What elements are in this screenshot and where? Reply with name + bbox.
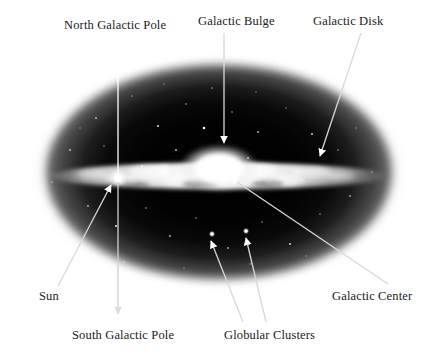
label-sun: Sun (39, 289, 59, 303)
label-galactic-bulge: Galactic Bulge (198, 14, 275, 28)
label-south-galactic-pole: South Galactic Pole (72, 328, 174, 342)
label-north-galactic-pole: North Galactic Pole (64, 18, 166, 32)
label-galactic-disk: Galactic Disk (313, 14, 383, 28)
galaxy-illustration (0, 0, 438, 358)
label-galactic-center: Galactic Center (332, 289, 412, 303)
label-globular-clusters: Globular Clusters (224, 328, 315, 342)
galaxy-diagram-figure: North Galactic Pole Galactic Bulge Galac… (0, 0, 438, 358)
galactic-bulge-core (179, 144, 259, 192)
